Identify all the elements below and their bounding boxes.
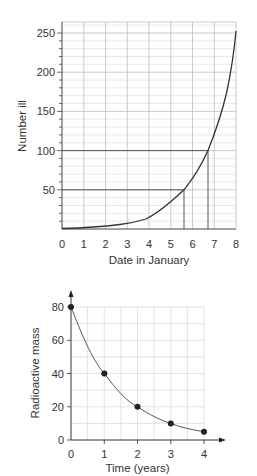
x-tick-label: 8 — [233, 238, 239, 250]
y-axis-arrow-icon — [69, 290, 74, 297]
y-tick-label: 200 — [37, 66, 55, 78]
y-axis-title: Number ill — [16, 100, 28, 152]
y-tick-label: 80 — [52, 301, 64, 313]
x-tick-label: 5 — [168, 238, 174, 250]
x-tick-label: 2 — [102, 238, 108, 250]
data-point — [68, 304, 74, 310]
grid — [71, 307, 204, 440]
y-tick-label: 60 — [52, 334, 64, 346]
x-tick-label: 2 — [134, 448, 140, 460]
x-tick-label: 0 — [59, 238, 65, 250]
y-tick-label: 250 — [37, 27, 55, 39]
y-tick-label: 0 — [58, 434, 64, 446]
y-tick-label: 100 — [37, 145, 55, 157]
x-tick-label: 4 — [201, 448, 207, 460]
data-point — [135, 404, 141, 410]
figure: 250 200 150 100 50 0 1 2 3 4 5 6 7 8 Dat… — [0, 0, 257, 476]
x-axis-title: Time (years) — [105, 462, 169, 474]
data-point — [201, 429, 207, 435]
x-tick-label: 4 — [146, 238, 152, 250]
x-axis-title: Date in January — [109, 254, 190, 266]
y-ticks — [57, 33, 62, 221]
x-tick-label: 7 — [211, 238, 217, 250]
x-tick-label: 3 — [124, 238, 130, 250]
data-point — [168, 420, 174, 426]
x-tick-label: 6 — [189, 238, 195, 250]
chart-number-ill: 250 200 150 100 50 0 1 2 3 4 5 6 7 8 Dat… — [16, 22, 239, 266]
y-tick-label: 50 — [43, 184, 55, 196]
x-tick-label: 1 — [81, 238, 87, 250]
x-tick-label: 3 — [168, 448, 174, 460]
chart-radioactive-mass: 80 60 40 20 0 0 1 2 3 4 Time (years) Rad… — [29, 290, 226, 474]
y-tick-label: 20 — [52, 401, 64, 413]
grid-major — [62, 22, 236, 229]
x-axis-arrow-icon — [219, 438, 226, 443]
x-tick-label: 1 — [101, 448, 107, 460]
y-tick-label: 40 — [52, 368, 64, 380]
data-point — [101, 371, 107, 377]
y-tick-label: 150 — [37, 105, 55, 117]
x-tick-label: 0 — [68, 448, 74, 460]
y-axis-title: Radioactive mass — [29, 327, 41, 418]
